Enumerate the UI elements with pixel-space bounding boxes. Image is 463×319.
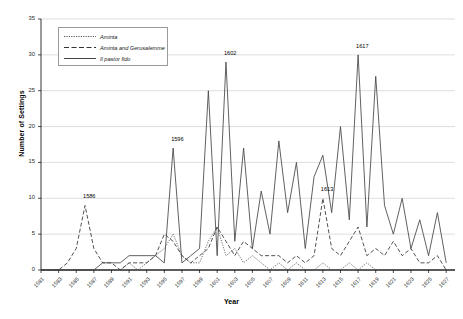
- y-tick-label: 25: [15, 87, 35, 93]
- legend-item-aminta: Aminta: [64, 31, 117, 42]
- peak-annotation: 1617: [356, 43, 368, 49]
- y-tick-label: 20: [15, 123, 35, 129]
- legend-item-il-pastor-fido: Il pastor fido: [64, 53, 130, 64]
- line-chart: Number of Settings Year Aminta Aminta an…: [0, 0, 463, 319]
- y-tick-label: 0: [15, 266, 35, 272]
- legend-label-il-pastor-fido: Il pastor fido: [100, 56, 130, 62]
- legend-swatch-dashed: [64, 45, 96, 50]
- y-tick-label: 35: [15, 15, 35, 21]
- x-axis-title: Year: [0, 298, 463, 305]
- y-tick-label: 10: [15, 194, 35, 200]
- peak-annotation: 1613: [321, 186, 333, 192]
- legend-swatch-solid: [64, 56, 96, 61]
- peak-annotation: 1596: [171, 136, 183, 142]
- peak-annotation: 1602: [224, 50, 236, 56]
- y-tick-label: 30: [15, 51, 35, 57]
- y-tick-label: 15: [15, 158, 35, 164]
- peak-annotation: 1586: [83, 193, 95, 199]
- legend-item-aminta-gerusalemme: Aminta and Gerusalemme: [64, 42, 165, 53]
- legend-label-aminta: Aminta: [100, 34, 117, 40]
- legend-swatch-dotted: [64, 34, 96, 39]
- legend-label-aminta-gerusalemme: Aminta and Gerusalemme: [100, 45, 165, 51]
- y-tick-label: 5: [15, 230, 35, 236]
- chart-legend: Aminta Aminta and Gerusalemme Il pastor …: [58, 27, 168, 66]
